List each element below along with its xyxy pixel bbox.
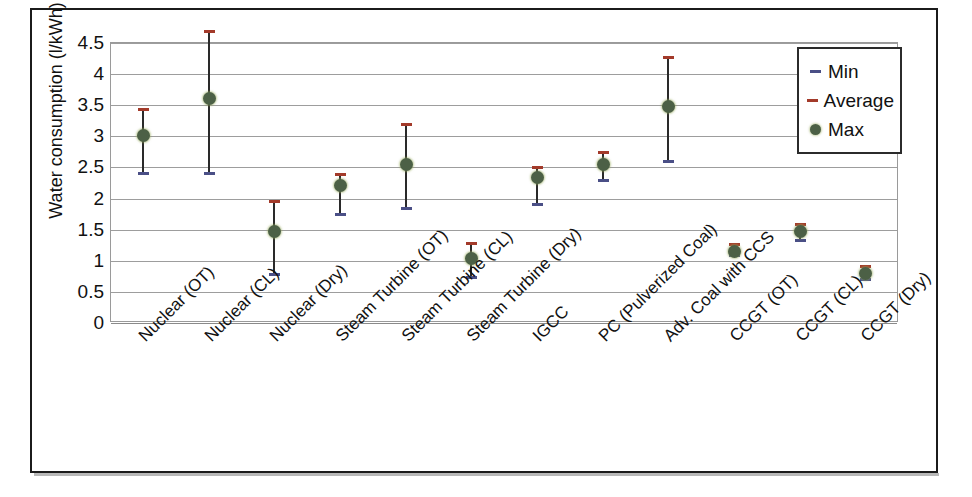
x-axis-tick-label: Adv. Coal with CCS	[660, 227, 779, 346]
x-axis-tick-label: Steam Turbine (OT)	[332, 226, 452, 346]
x-axis-tick-label: PC (Pulverized Coal)	[595, 220, 721, 346]
x-axis-tick-label: CCGT (Dry)	[857, 268, 935, 346]
legend-item[interactable]: Min	[807, 57, 894, 86]
legend-label: Max	[828, 120, 864, 139]
legend-item[interactable]: Max	[807, 115, 894, 144]
legend-item[interactable]: Average	[807, 86, 894, 115]
legend-label: Average	[824, 91, 894, 110]
legend-label: Min	[828, 62, 859, 81]
x-axis-tick-label: CCGT (CL)	[792, 271, 867, 346]
x-axis-tick-label: Steam Turbine (CL)	[398, 227, 517, 346]
chart-canvas: Water consumption (l/kWh) 4.543.532.521.…	[0, 0, 972, 497]
chart-legend: MinAverageMax	[797, 47, 902, 154]
x-axis-tick-label: Steam Turbine (Dry)	[463, 224, 585, 346]
x-axis-tick-label: IGCC	[529, 302, 573, 346]
dash-marker-blue-icon	[807, 70, 823, 73]
dot-marker-green-icon	[807, 124, 823, 135]
dash-marker-red-icon	[807, 99, 819, 102]
